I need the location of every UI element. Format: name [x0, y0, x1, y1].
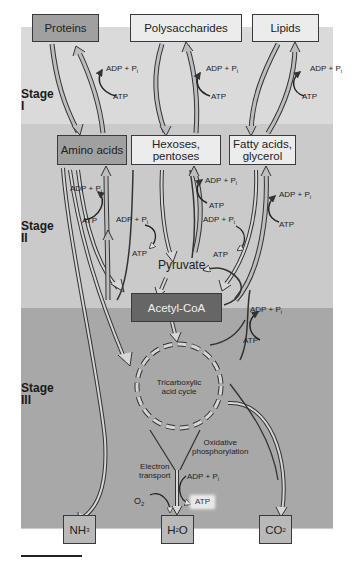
adp-text: ADP + P	[70, 184, 101, 193]
adp-pi-label: ADP + Pi	[203, 215, 235, 227]
adp-pi-label: ADP + Pi	[206, 64, 238, 76]
o2-subscript: 2	[141, 501, 144, 507]
atp-label: ATP	[213, 250, 228, 259]
tca-line2: acid cycle	[154, 387, 204, 396]
co2-text: CO	[265, 524, 282, 536]
nh3-text: NH	[70, 524, 87, 536]
electron-line2: transport	[139, 471, 171, 480]
stage-numeral: III	[21, 394, 54, 406]
pi-subscript: i	[218, 476, 219, 482]
adp-pi-label: ADP + Pi	[279, 190, 311, 202]
adp-pi-label: ADP + Pi	[250, 305, 282, 317]
electron-transport-label: Electron transport	[139, 462, 171, 480]
stage-2-label: Stage II	[21, 220, 54, 244]
atp-label: ATP	[279, 220, 294, 229]
pi-subscript: i	[281, 309, 282, 315]
catabolism-stages-diagram: Stage I Stage II Stage III Proteins Poly…	[0, 0, 364, 563]
h2o-text-o: O	[179, 524, 188, 536]
atp-label: ATP	[211, 92, 226, 101]
adp-text: ADP + P	[310, 64, 341, 73]
stage-1-label: Stage I	[21, 88, 54, 112]
adp-pi-label: ADP + Pi	[187, 472, 219, 484]
pi-subscript: i	[137, 68, 138, 74]
atp-label: ATP	[243, 336, 258, 345]
stage-3-label: Stage III	[21, 382, 54, 406]
node-fatty-acids-glycerol: Fatty acids, glycerol	[229, 135, 296, 165]
node-acetyl-coa: Acetyl-CoA	[131, 293, 222, 322]
adp-pi-label: ADP + Pi	[116, 215, 148, 227]
adp-text: ADP + P	[250, 305, 281, 314]
oxidative-phosphorylation-label: Oxidative phosphorylation	[192, 438, 248, 456]
atp-label: ATP	[302, 92, 317, 101]
pi-subscript: i	[310, 194, 311, 200]
atp-label: ATP	[209, 201, 224, 210]
adp-text: ADP + P	[279, 190, 310, 199]
adp-pi-label: ADP + Pi	[310, 64, 342, 76]
tca-line1: Tricarboxylic	[154, 378, 204, 387]
node-pyruvate: Pyruvate	[158, 258, 205, 272]
oxidative-line1: Oxidative	[192, 438, 248, 447]
atp-label: ATP	[82, 216, 97, 225]
h2o-text-h: H	[167, 524, 175, 536]
nh3-subscript: 3	[86, 524, 89, 536]
adp-text: ADP + P	[116, 215, 147, 224]
adp-text: ADP + P	[206, 64, 237, 73]
node-co2: CO2	[259, 515, 292, 544]
stage-word: Stage	[21, 88, 54, 100]
co2-subscript: 2	[282, 524, 285, 536]
stage-numeral: II	[21, 232, 54, 244]
adp-pi-label: ADP + Pi	[205, 176, 237, 188]
diagram-background	[0, 0, 364, 563]
fatty-acids-line2: glycerol	[243, 150, 283, 162]
stage-numeral: I	[21, 100, 54, 112]
o2-label: O2	[134, 497, 144, 509]
adp-pi-label: ADP + Pi	[70, 184, 102, 196]
node-nh3: NH3	[63, 515, 96, 544]
pi-subscript: i	[147, 219, 148, 225]
node-proteins: Proteins	[32, 14, 99, 42]
oxidative-line2: phosphorylation	[192, 447, 248, 456]
node-tca-cycle: Tricarboxylic acid cycle	[154, 378, 204, 396]
node-hexoses-pentoses: Hexoses, pentoses	[131, 135, 221, 165]
node-lipids: Lipids	[252, 14, 319, 42]
node-amino-acids: Amino acids	[57, 135, 127, 165]
pi-subscript: i	[341, 68, 342, 74]
pi-subscript: i	[237, 68, 238, 74]
pi-subscript: i	[236, 180, 237, 186]
atp-label: ATP	[132, 249, 147, 258]
adp-text: ADP + P	[205, 176, 236, 185]
node-polysaccharides: Polysaccharides	[130, 14, 242, 42]
electron-line1: Electron	[139, 462, 171, 471]
atp-highlight-label: ATP	[192, 497, 213, 507]
scale-bar	[21, 555, 82, 557]
o2-text: O	[134, 496, 141, 506]
adp-text: ADP + P	[203, 215, 234, 224]
adp-text: ADP + P	[106, 64, 137, 73]
atp-label: ATP	[113, 92, 128, 101]
pi-subscript: i	[101, 188, 102, 194]
fatty-acids-line1: Fatty acids,	[233, 138, 292, 150]
adp-text: ADP + P	[187, 472, 218, 481]
pi-subscript: i	[234, 219, 235, 225]
adp-pi-label: ADP + Pi	[106, 64, 138, 76]
node-h2o: H2O	[161, 515, 194, 544]
